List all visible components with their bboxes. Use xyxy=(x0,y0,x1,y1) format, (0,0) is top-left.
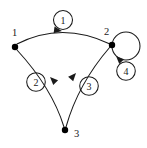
node-3-dot xyxy=(62,127,68,133)
edge-2-arrowhead xyxy=(48,75,58,85)
edge-3-group: 3 xyxy=(66,47,110,127)
edge-2-path xyxy=(17,50,64,127)
edge-2-label-text: 2 xyxy=(34,77,39,88)
graph-canvas: Directed graph with four labeled edges 1… xyxy=(0,0,147,148)
edge-3-label-text: 3 xyxy=(87,81,92,92)
node-3-label: 3 xyxy=(74,128,79,139)
graph-diagram: Directed graph with four labeled edges 1… xyxy=(0,0,147,148)
edge-2-group: 2 xyxy=(17,50,64,127)
edge-1-group: 1 xyxy=(17,11,110,45)
edge-4-self-loop-path xyxy=(112,32,140,60)
node-2-group: 2 xyxy=(104,26,115,48)
edge-3-arrowhead xyxy=(68,71,78,81)
node-1-dot xyxy=(12,44,18,50)
node-2-dot xyxy=(109,42,115,48)
edge-4-label-text: 4 xyxy=(124,66,129,77)
edge-4-self-loop-group: 4 xyxy=(112,32,140,80)
node-1-label: 1 xyxy=(12,27,17,38)
node-3-group: 3 xyxy=(62,127,79,139)
node-2-label: 2 xyxy=(104,26,109,37)
edge-1-label-text: 1 xyxy=(61,15,66,26)
node-1-group: 1 xyxy=(12,27,18,50)
edge-1-path xyxy=(17,33,110,45)
